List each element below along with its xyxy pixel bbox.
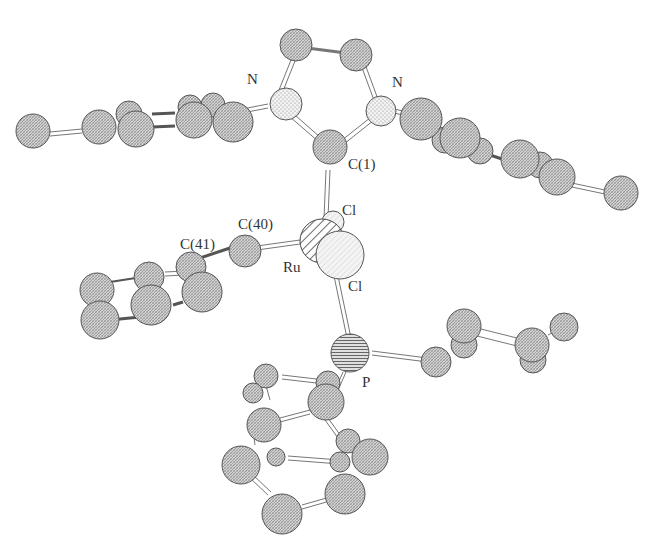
carbon-atom bbox=[447, 309, 481, 343]
carbon-atom bbox=[262, 494, 302, 534]
carbon-atom bbox=[440, 118, 480, 158]
carbon-atom bbox=[267, 448, 285, 466]
carbon-atom bbox=[340, 39, 372, 71]
label-p: P bbox=[362, 375, 370, 390]
carbon-atom bbox=[352, 439, 388, 475]
carbon-atom bbox=[604, 176, 638, 210]
carbon-atom bbox=[247, 408, 281, 442]
carbon-atom bbox=[515, 328, 549, 362]
carbon-atom bbox=[176, 102, 212, 138]
nitrogen-atom-left bbox=[270, 88, 302, 120]
carbon-atom-c1 bbox=[313, 130, 347, 164]
label-ru: Ru bbox=[283, 260, 301, 275]
carbon-atom bbox=[400, 98, 442, 140]
chlorine-atom-bottom bbox=[316, 231, 364, 279]
carbon-atom bbox=[243, 383, 263, 403]
carbon-atom bbox=[213, 102, 253, 142]
carbon-atom bbox=[82, 110, 116, 144]
nitrogen-atom-right bbox=[366, 96, 396, 126]
phosphorus-atom bbox=[331, 334, 369, 372]
carbon-atom bbox=[501, 140, 539, 178]
carbon-atom bbox=[118, 111, 154, 147]
molecule-drawing bbox=[0, 0, 655, 552]
carbon-atom bbox=[421, 347, 451, 377]
carbon-atom bbox=[16, 114, 50, 148]
label-n-left: N bbox=[247, 72, 258, 87]
atoms bbox=[16, 29, 638, 534]
carbon-atom-c40 bbox=[229, 235, 261, 267]
carbon-atom bbox=[308, 384, 344, 420]
carbon-atom bbox=[222, 446, 260, 484]
carbon-atom bbox=[539, 159, 575, 195]
label-c40: C(40) bbox=[238, 217, 273, 232]
label-cl-top: Cl bbox=[342, 203, 356, 218]
carbon-atom bbox=[182, 272, 222, 312]
label-cl-bottom: Cl bbox=[348, 279, 362, 294]
label-c41: C(41) bbox=[180, 237, 215, 252]
label-n-right: N bbox=[392, 75, 403, 90]
molecular-structure-diagram: N N C(1) Cl C(40) C(41) Ru Cl P bbox=[0, 0, 655, 552]
carbon-atom bbox=[280, 29, 312, 61]
carbon-atom bbox=[81, 301, 119, 339]
carbon-atom bbox=[550, 313, 578, 341]
carbon-atom bbox=[325, 474, 365, 514]
carbon-atom bbox=[330, 452, 350, 472]
label-c1: C(1) bbox=[348, 157, 376, 172]
carbon-atom bbox=[131, 285, 171, 325]
